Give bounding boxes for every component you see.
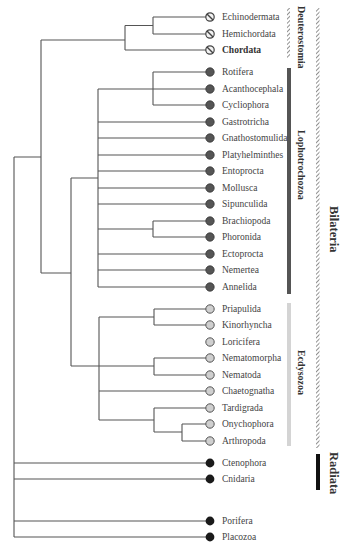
taxon-label: Porifera [222, 515, 253, 527]
clade-label-lophotrochozoa: Lophotrochozoa [296, 130, 307, 200]
taxon-label: Nematoda [222, 369, 261, 381]
taxon-label: Phoronida [222, 231, 261, 243]
bilateria-bar [316, 8, 320, 448]
taxon-label: Entoprocta [222, 165, 264, 177]
taxon-label: Ctenophora [222, 457, 266, 469]
taxon-label: Platyhelminthes [222, 149, 283, 161]
taxon-markers [206, 13, 215, 542]
taxon-label: Ectoprocta [222, 248, 263, 260]
taxon-label: Chordata [222, 44, 261, 56]
deuterostome-marker-echinodermata [206, 13, 214, 21]
deuterostome-marker-chordata [206, 46, 214, 54]
radiata-bar [316, 454, 320, 490]
taxon-label: Kinorhyncha [222, 319, 272, 331]
taxon-label: Gastrotricha [222, 116, 269, 128]
taxon-label: Chaetognatha [222, 385, 274, 397]
deuterostomia-bar [287, 8, 290, 58]
taxon-label: Cnidaria [222, 473, 255, 485]
clade-label-bilateria: Bilateria [326, 206, 341, 253]
taxon-label: Nematomorpha [222, 352, 281, 364]
taxon-label: Arthropoda [222, 435, 266, 447]
deuterostome-marker-hemichordata [206, 30, 214, 38]
clade-label-deuterostomia: Deuterostomia [296, 6, 307, 69]
taxon-label: Echinodermata [222, 11, 280, 23]
taxon-label: Rotifera [222, 66, 253, 78]
taxon-label: Annelida [222, 281, 257, 293]
taxon-label: Mollusca [222, 182, 257, 194]
taxon-label: Loricifera [222, 336, 260, 348]
clade-label-radiata: Radiata [326, 452, 341, 494]
taxon-label: Gnathostomulida [222, 132, 287, 144]
taxon-label: Placozoa [222, 531, 256, 543]
taxon-label: Cycliophora [222, 99, 269, 111]
taxon-label: Nemertea [222, 264, 259, 276]
tree-branches [14, 17, 210, 537]
clade-label-ecdysozoa: Ecdysozoa [296, 350, 307, 395]
taxon-label: Hemichordata [222, 28, 276, 40]
taxon-label: Priapulida [222, 303, 261, 315]
taxon-label: Brachiopoda [222, 215, 271, 227]
taxon-label: Sipunculida [222, 198, 267, 210]
taxon-label: Tardigrada [222, 402, 263, 414]
lophotrochozoa-bar [287, 68, 291, 294]
phylogenetic-tree [0, 0, 349, 548]
taxon-label: Onychophora [222, 418, 274, 430]
taxon-label: Acanthocephala [222, 83, 283, 95]
ecdysozoa-bar [287, 303, 291, 446]
